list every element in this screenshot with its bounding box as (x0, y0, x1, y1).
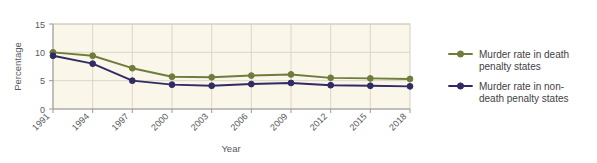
data-point (288, 80, 294, 86)
x-tick-label-2012: 2012 (308, 111, 329, 132)
data-point (367, 83, 373, 89)
data-point (407, 83, 413, 89)
y-axis-ticks (49, 24, 53, 109)
data-point (50, 53, 56, 59)
data-point (288, 72, 294, 78)
data-point (169, 74, 175, 80)
legend-label-non-death-penalty-line1: Murder rate in non- (479, 81, 564, 92)
legend-swatch-marker-non-death-penalty (457, 83, 463, 89)
x-tick-label-2018: 2018 (387, 111, 408, 132)
legend-item-death-penalty[interactable]: Murder rate in death penalty states (449, 49, 569, 72)
data-point (328, 75, 334, 81)
chart-legend: Murder rate in death penalty states Murd… (449, 49, 569, 104)
x-tick-label-2015: 2015 (347, 111, 368, 132)
legend-label-death-penalty-line2: penalty states (479, 61, 541, 72)
legend-item-non-death-penalty[interactable]: Murder rate in non- death penalty states (449, 81, 569, 104)
data-point (90, 61, 96, 67)
legend-swatch-marker-death-penalty (457, 51, 463, 57)
data-point (209, 83, 215, 89)
x-tick-label-1997: 1997 (109, 111, 130, 132)
legend-label-non-death-penalty-line2: death penalty states (479, 93, 569, 104)
data-point (367, 76, 373, 82)
x-tick-label-2000: 2000 (149, 111, 170, 132)
murder-rate-line-chart: 15 10 5 0 Percentage 1991 1994 1997 2000… (0, 0, 597, 163)
data-point (407, 76, 413, 82)
y-axis-title: Percentage (12, 42, 23, 91)
plot-area-background (53, 24, 410, 109)
x-axis-title: Year (221, 143, 240, 154)
y-tick-label-5: 5 (40, 76, 45, 86)
x-tick-label-1994: 1994 (70, 111, 91, 132)
data-point (169, 82, 175, 88)
x-tick-label-2003: 2003 (189, 111, 210, 132)
data-point (248, 81, 254, 87)
x-tick-label-2006: 2006 (228, 111, 249, 132)
data-point (129, 65, 135, 71)
data-point (90, 53, 96, 59)
data-point (209, 74, 215, 80)
legend-label-death-penalty-line1: Murder rate in death (479, 49, 569, 60)
data-point (248, 73, 254, 79)
y-tick-label-10: 10 (35, 48, 45, 58)
y-tick-label-15: 15 (35, 20, 45, 30)
x-tick-label-1991: 1991 (30, 111, 51, 132)
x-axis-ticks (53, 109, 410, 113)
x-tick-label-2009: 2009 (268, 111, 289, 132)
data-point (129, 78, 135, 84)
data-point (328, 82, 334, 88)
